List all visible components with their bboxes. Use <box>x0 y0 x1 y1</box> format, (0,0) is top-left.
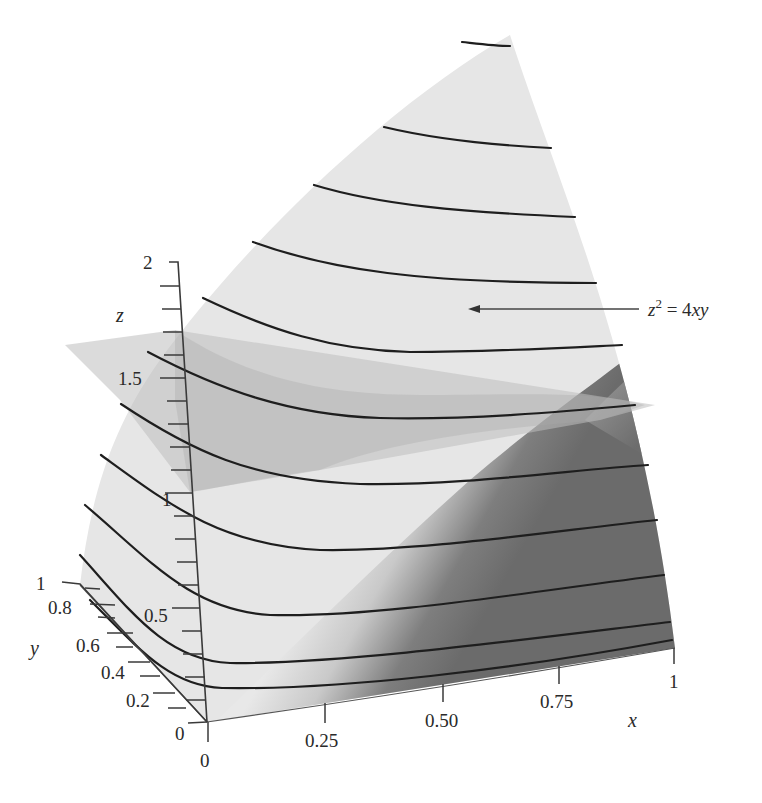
y-tick-1: 1 <box>36 573 46 594</box>
annotation-equation: z2 = 4xy <box>647 296 709 320</box>
surface-plot: 2 1.5 1 0.5 z 1 0.8 0.6 0.4 0.2 0 y 0 0.… <box>0 0 762 803</box>
x-axis-title: x <box>627 709 637 731</box>
z-tick-1.5: 1.5 <box>118 368 142 389</box>
y-tick-0: 0 <box>175 723 185 744</box>
z-tick-2: 2 <box>143 252 153 273</box>
y-tick-0.6: 0.6 <box>76 635 100 656</box>
z-tick-0.5: 0.5 <box>144 605 168 626</box>
x-tick-1: 1 <box>669 671 679 692</box>
x-tick-0.25: 0.25 <box>305 730 338 751</box>
y-tick-0.8: 0.8 <box>48 597 72 618</box>
x-tick-0.50: 0.50 <box>425 710 458 731</box>
y-tick-0.4: 0.4 <box>101 662 125 683</box>
x-tick-0: 0 <box>200 750 210 771</box>
z-tick-1: 1 <box>162 489 172 510</box>
z-axis-title: z <box>115 304 124 326</box>
x-tick-0.75: 0.75 <box>540 691 573 712</box>
y-axis-title: y <box>28 637 39 660</box>
y-tick-0.2: 0.2 <box>126 690 150 711</box>
